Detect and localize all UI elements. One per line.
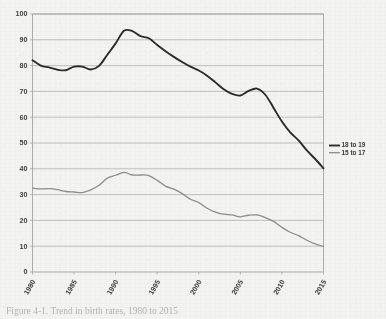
y-tick-label-60: 60 [20,113,28,122]
series-line-18-to-19 [33,30,324,169]
x-tick-label-2000: 2000 [188,278,204,296]
y-tick-label-30: 30 [20,190,28,199]
x-tick-label-1980: 1980 [22,278,38,296]
y-tick-label-50: 50 [20,138,28,147]
series-lines-group [33,30,324,247]
x-tick-label-1985: 1985 [63,278,79,296]
series-line-15-to-17 [33,172,324,246]
x-tick-label-1995: 1995 [146,278,162,296]
x-tick-label-2015: 2015 [313,278,329,296]
y-tick-label-10: 10 [20,242,28,251]
y-tick-label-80: 80 [20,61,28,70]
figure-caption: Figure 4-1. Trend in birth rates, 1980 t… [6,306,380,316]
y-tick-label-40: 40 [20,164,28,173]
legend-label-15-to-17: 15 to 17 [342,149,366,156]
legend-group: 18 to 1915 to 17 [329,141,366,155]
legend-label-18-to-19: 18 to 19 [342,141,366,148]
y-tick-label-20: 20 [20,216,28,225]
y-axis-tick-labels: 0102030405060708090100 [16,9,33,276]
y-tick-label-0: 0 [24,267,28,276]
x-tick-label-2005: 2005 [229,278,245,296]
y-tick-label-90: 90 [20,35,28,44]
y-tick-label-100: 100 [16,9,28,18]
x-axis-tick-labels: 19801985199019952000200520102015 [22,272,329,296]
screenshot-root: 0102030405060708090100 19801985199019952… [0,0,386,319]
chart-canvas: 0102030405060708090100 19801985199019952… [0,0,386,319]
gridlines-group [33,14,324,246]
y-tick-label-70: 70 [20,87,28,96]
line-chart-figure: 0102030405060708090100 19801985199019952… [0,0,386,319]
x-tick-label-2010: 2010 [271,278,287,296]
x-tick-label-1990: 1990 [105,278,121,296]
